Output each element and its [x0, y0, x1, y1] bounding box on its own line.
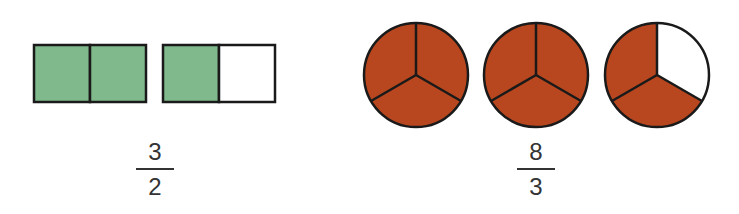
fraction-bar [136, 168, 174, 170]
circle-whole-3 [605, 23, 709, 127]
rectangle-whole-1 [34, 45, 146, 102]
numerator: 3 [125, 140, 185, 164]
fraction-models [0, 0, 739, 214]
rect-part-shaded [34, 45, 90, 102]
rectangle-whole-2 [163, 45, 275, 102]
fraction-eight-thirds: 8 3 [506, 140, 566, 199]
circle-whole-2 [484, 23, 588, 127]
denominator: 3 [506, 175, 566, 199]
fraction-three-halves: 3 2 [125, 140, 185, 199]
rect-part-shaded [90, 45, 146, 102]
rect-part-shaded [163, 45, 219, 102]
numerator: 8 [506, 140, 566, 164]
denominator: 2 [125, 175, 185, 199]
rect-part-empty [219, 45, 275, 102]
circle-whole-1 [364, 23, 468, 127]
fraction-bar [517, 168, 555, 170]
